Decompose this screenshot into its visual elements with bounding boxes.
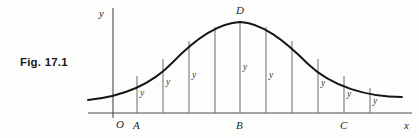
- point-label-a: A: [132, 119, 140, 131]
- origin-label: O: [116, 118, 124, 130]
- figure-container: Fig. 17.1 y x O A B C D y y y y y: [0, 0, 419, 138]
- ordinate-label-5: y: [242, 62, 248, 72]
- bell-curve-path: [88, 22, 402, 100]
- ordinate-label-2: y: [165, 77, 171, 87]
- ordinate-label-10: y: [372, 96, 378, 106]
- ordinate-label-1: y: [139, 88, 145, 98]
- point-label-b: B: [236, 119, 243, 131]
- y-axis-label: y: [98, 7, 104, 19]
- point-label-d: D: [235, 4, 244, 16]
- bell-curve-diagram: y x O A B C D y y y y y y y y: [0, 0, 419, 138]
- point-label-c: C: [340, 119, 348, 131]
- ordinate-label-8: y: [320, 78, 326, 88]
- ordinate-label-6: y: [268, 70, 274, 80]
- ordinate-label-3: y: [191, 70, 197, 80]
- x-axis-label: x: [403, 119, 409, 131]
- ordinate-label-9: y: [346, 89, 352, 99]
